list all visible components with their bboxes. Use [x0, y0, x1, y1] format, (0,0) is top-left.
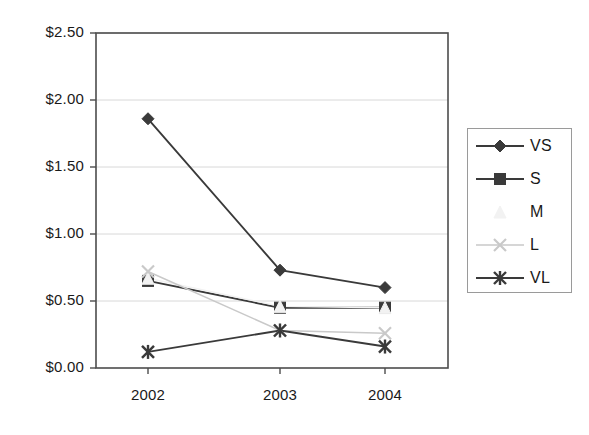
y-tick-label: $2.00: [45, 90, 84, 107]
legend-marker-L-icon: [472, 234, 528, 256]
y-tick-label: $1.50: [45, 157, 84, 174]
series-line-VS: [148, 119, 385, 288]
legend-item-S: S: [468, 162, 573, 195]
series-VS: [148, 119, 385, 288]
axis-ticks: [90, 33, 385, 374]
legend-label-VL: VL: [530, 269, 550, 287]
series-markers-L: [142, 266, 391, 340]
legend-marker-VS-icon: [472, 135, 528, 157]
legend-label-M: M: [530, 203, 544, 221]
series-line-VL: [148, 330, 385, 351]
y-tick-label: $0.50: [45, 291, 84, 308]
y-tick-label: $2.50: [45, 23, 84, 40]
x-tick-label: 2003: [240, 386, 320, 403]
axis-frame: [96, 33, 448, 368]
series-markers-VS: [142, 113, 391, 294]
legend-item-VS: VS: [468, 129, 573, 162]
legend-marker-S-icon: [472, 168, 528, 190]
legend-label-L: L: [530, 236, 539, 254]
chart-legend: VSSMLVL: [467, 128, 572, 293]
data-point-square: [495, 173, 506, 184]
legend-item-VL: VL: [468, 261, 573, 294]
x-tick-label: 2002: [108, 386, 188, 403]
data-point-diamond: [494, 140, 506, 152]
legend-item-M: M: [468, 195, 573, 228]
line-chart: $0.00$0.50$1.00$1.50$2.00$2.50 200220032…: [0, 0, 589, 435]
y-tick-label: $1.00: [45, 224, 84, 241]
legend-label-VS: VS: [530, 137, 552, 155]
y-tick-label: $0.00: [45, 358, 84, 375]
x-tick-label: 2004: [345, 386, 425, 403]
data-point-triangle: [494, 206, 506, 218]
legend-marker-M-icon: [472, 201, 528, 223]
legend-label-S: S: [530, 170, 541, 188]
plot-border: [96, 33, 448, 368]
data-point-diamond: [379, 282, 391, 294]
series-VL: [148, 330, 385, 351]
legend-item-L: L: [468, 228, 573, 261]
legend-marker-VL-icon: [472, 267, 528, 289]
data-series-layer: [142, 113, 391, 359]
